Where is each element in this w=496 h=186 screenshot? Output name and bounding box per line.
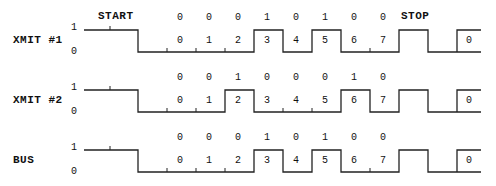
timing-waveforms bbox=[0, 0, 496, 186]
